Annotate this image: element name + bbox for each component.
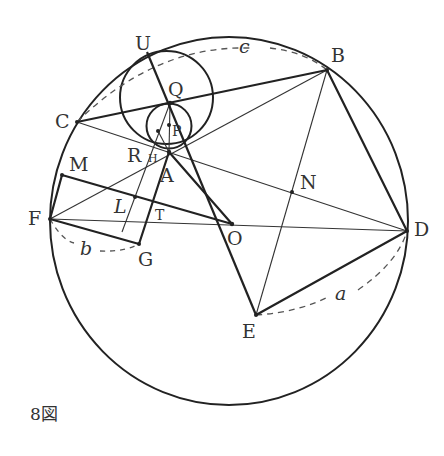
- label-q: Q: [168, 78, 184, 100]
- thick-lines: [50, 52, 407, 315]
- thin-lines: [50, 70, 407, 315]
- label-o: O: [227, 227, 243, 249]
- label-e: E: [242, 320, 256, 342]
- label-m: M: [69, 153, 88, 175]
- arc-b-right: [100, 244, 139, 251]
- label-r: R: [127, 144, 142, 166]
- label-b: B: [331, 44, 345, 66]
- label-d: D: [414, 218, 429, 240]
- label-f: F: [28, 207, 41, 229]
- label-a: A: [159, 164, 174, 186]
- label-c: C: [55, 110, 70, 132]
- label-u: U: [135, 32, 151, 54]
- arc-a-right: [358, 231, 407, 290]
- label-h: H: [148, 152, 158, 165]
- arc-c: [77, 48, 250, 122]
- arc-label-b: b: [80, 237, 92, 259]
- label-n: N: [300, 171, 317, 193]
- point-dots: [48, 68, 409, 317]
- figure-caption: 8図: [30, 400, 58, 425]
- label-l: L: [113, 195, 127, 217]
- arc-a: [256, 296, 330, 315]
- geometry-figure: U Q P C B R H A M N F L T O D G E a b c: [0, 0, 444, 456]
- label-t: T: [155, 207, 165, 223]
- arc-label-a: a: [335, 282, 346, 304]
- arc-label-c: c: [239, 35, 250, 57]
- label-g: G: [138, 248, 153, 270]
- label-p: P: [172, 123, 181, 139]
